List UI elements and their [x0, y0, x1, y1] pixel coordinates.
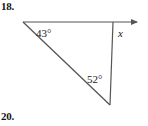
unknown-angle-label-x: x [118, 27, 123, 39]
triangle-diagram [0, 0, 148, 126]
angle-label-bottom: 52° [87, 73, 102, 85]
next-problem-number-label: 20. [1, 111, 14, 122]
triangle-vertical-line [110, 22, 113, 105]
angle-label-top-left: 43° [36, 27, 51, 39]
geometry-figure: 18. 43° 52° x 20. [0, 0, 148, 126]
